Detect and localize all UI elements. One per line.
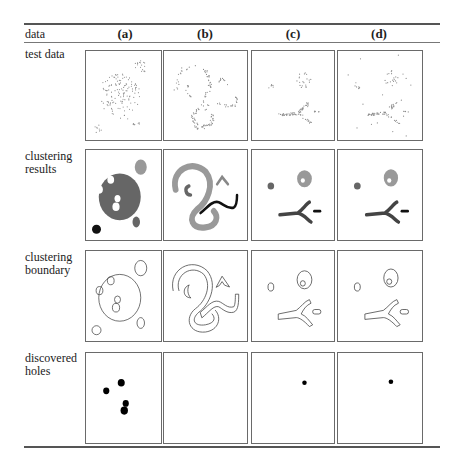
row-label-clustering-results: clustering results: [25, 150, 83, 176]
table-top-rule: [24, 23, 440, 25]
column-header-a: (a): [83, 27, 167, 41]
column-header-c: (c): [251, 27, 335, 41]
boundaries-a: [86, 251, 161, 341]
panel-clustering-boundary-d: [337, 250, 423, 342]
scatter-points-b: [164, 51, 247, 140]
panel-clustering-results-a: [85, 149, 162, 241]
panel-clustering-results-c: [251, 149, 335, 241]
panel-discovered-holes-d: [337, 352, 423, 444]
panel-test-data-a: [85, 50, 162, 141]
panel-test-data-c: [251, 50, 335, 141]
panel-test-data-b: [163, 50, 248, 141]
clusters-a: [86, 150, 161, 240]
clusters-c: [252, 150, 334, 240]
holes-c: [252, 353, 334, 443]
header-rule: [24, 42, 440, 43]
panel-clustering-boundary-b: [163, 250, 248, 342]
boundaries-b: [164, 251, 247, 341]
holes-a: [86, 353, 161, 443]
panel-test-data-d: [337, 50, 423, 141]
panel-discovered-holes-c: [251, 352, 335, 444]
boundaries-d: [338, 251, 422, 341]
panel-discovered-holes-a: [85, 352, 162, 444]
clusters-b: [164, 150, 247, 240]
scatter-points-c: [252, 51, 334, 140]
column-header-d: (d): [337, 27, 421, 41]
panel-clustering-results-d: [337, 149, 423, 241]
panel-discovered-holes-b: [163, 352, 248, 444]
clusters-d: [338, 150, 422, 240]
row-label-test-data: test data: [25, 48, 83, 61]
panel-clustering-results-b: [163, 149, 248, 241]
row-label-discovered-holes: discovered holes: [25, 352, 83, 378]
boundaries-c: [252, 251, 334, 341]
header-data-label: data: [25, 27, 45, 41]
table-bottom-rule: [24, 446, 440, 448]
panel-clustering-boundary-a: [85, 250, 162, 342]
holes-d: [338, 353, 422, 443]
scatter-points-d: [338, 51, 422, 140]
panel-clustering-boundary-c: [251, 250, 335, 342]
column-header-b: (b): [163, 27, 247, 41]
holes-b: [164, 353, 247, 443]
row-label-clustering-boundary: clustering boundary: [25, 251, 83, 277]
scatter-points-a: [86, 51, 161, 140]
